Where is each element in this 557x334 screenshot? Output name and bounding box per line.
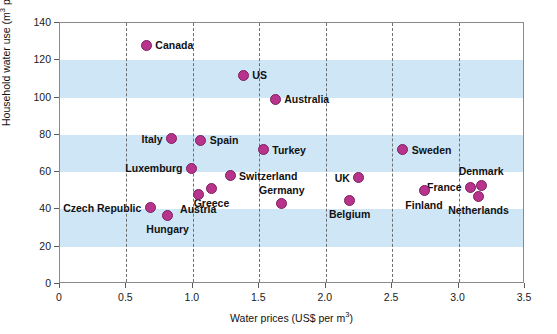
y-axis-title-suffix: per person year) — [0, 0, 12, 8]
y-tick-label: 0 — [21, 277, 51, 289]
y-axis-title: Household water use (m3 per person year) — [0, 0, 12, 152]
gridline-vertical — [459, 23, 460, 282]
data-point-label: Luxemburg — [125, 163, 182, 174]
data-point-label: Germany — [259, 184, 305, 195]
data-point-label: Italy — [142, 133, 163, 144]
data-point-label: Hungary — [146, 224, 189, 235]
data-point[interactable] — [353, 172, 364, 183]
y-axis-title-prefix: Household water use (m — [0, 12, 12, 126]
data-point[interactable] — [225, 170, 236, 181]
x-tick-mark — [524, 283, 525, 288]
data-point-label: Belgium — [329, 209, 370, 220]
data-point-label: US — [252, 70, 267, 81]
data-point[interactable] — [186, 163, 197, 174]
x-tick-mark — [458, 283, 459, 288]
data-point-label: Australia — [284, 94, 329, 105]
x-tick-label: 1.0 — [185, 291, 200, 303]
x-tick-label: 2.5 — [384, 291, 399, 303]
x-tick-label: 3.5 — [517, 291, 532, 303]
x-tick-mark — [192, 283, 193, 288]
data-point[interactable] — [206, 183, 217, 194]
data-point-label: Sweden — [412, 145, 452, 156]
data-point[interactable] — [476, 180, 487, 191]
scatter-chart: Household water use (m3 per person year)… — [0, 0, 557, 334]
gridline-vertical — [326, 23, 327, 282]
data-point-label: Finland — [405, 200, 442, 211]
data-point[interactable] — [141, 40, 152, 51]
x-tick-mark — [59, 283, 60, 288]
x-tick-mark — [325, 283, 326, 288]
data-point-label: France — [427, 182, 461, 193]
y-tick-label: 140 — [21, 16, 51, 28]
x-axis-title: Water prices (US$ per m3) — [59, 310, 524, 324]
data-point-label: Austria — [180, 204, 216, 215]
gridline-vertical — [126, 23, 127, 282]
x-tick-label: 2.0 — [317, 291, 332, 303]
y-tick-label: 100 — [21, 91, 51, 103]
data-point-label: UK — [335, 172, 350, 183]
data-point[interactable] — [419, 185, 430, 196]
data-point-label: Czech Republic — [63, 202, 141, 213]
data-point-label: Turkey — [272, 145, 306, 156]
data-point-label: Canada — [155, 40, 193, 51]
data-point[interactable] — [238, 70, 249, 81]
data-point-label: Netherlands — [448, 205, 509, 216]
data-point[interactable] — [162, 210, 173, 221]
data-point[interactable] — [258, 144, 269, 155]
x-tick-label: 0 — [56, 291, 62, 303]
data-point[interactable] — [276, 198, 287, 209]
data-point[interactable] — [270, 94, 281, 105]
data-point[interactable] — [344, 195, 355, 206]
shaded-band — [60, 60, 523, 97]
y-tick-label: 20 — [21, 240, 51, 252]
x-tick-mark — [125, 283, 126, 288]
x-tick-label: 3.0 — [450, 291, 465, 303]
x-tick-mark — [258, 283, 259, 288]
y-tick-label: 120 — [21, 53, 51, 65]
x-tick-label: 0.5 — [118, 291, 133, 303]
x-axis-title-suffix: ) — [349, 312, 353, 324]
data-point[interactable] — [473, 191, 484, 202]
gridline-vertical — [193, 23, 194, 282]
data-point-label: Denmark — [459, 166, 504, 177]
y-tick-label: 80 — [21, 128, 51, 140]
x-axis-title-prefix: Water prices (US$ per m — [230, 312, 345, 324]
y-tick-label: 40 — [21, 202, 51, 214]
plot-area: CanadaUSAustraliaItalySpainTurkeySwedenL… — [59, 22, 524, 283]
gridline-vertical — [392, 23, 393, 282]
y-tick-label: 60 — [21, 165, 51, 177]
data-point[interactable] — [193, 189, 204, 200]
data-point-label: Spain — [210, 135, 239, 146]
x-tick-label: 1.5 — [251, 291, 266, 303]
data-point-label: Switzerland — [239, 171, 297, 182]
data-point[interactable] — [145, 202, 156, 213]
x-tick-mark — [391, 283, 392, 288]
y-axis-title-exponent: 3 — [0, 8, 7, 12]
data-point[interactable] — [465, 182, 476, 193]
